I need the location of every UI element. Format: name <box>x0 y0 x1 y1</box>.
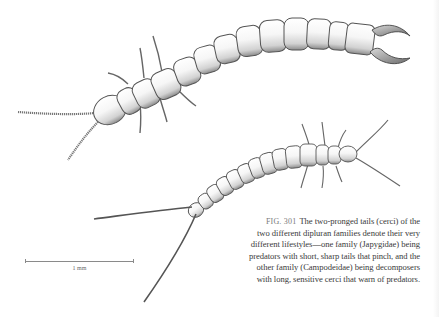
campodeid-antenna-upper <box>356 120 388 152</box>
scale-bar-tick-left <box>25 259 26 263</box>
caption-line-4: predators with short, sharp tails that p… <box>249 251 420 261</box>
japygid-cercus-upper <box>372 25 410 36</box>
book-page: FIG. 301The two-pronged tails (cerci) of… <box>0 0 439 317</box>
caption-line-2: two different dipluran families denote t… <box>257 228 420 238</box>
caption-line-3: different lifestyles—one family (Japygid… <box>251 239 420 249</box>
campodeid-antenna-lower <box>356 158 400 186</box>
caption-line-1: The two-pronged tails (cerci) of the <box>299 216 420 226</box>
scale-bar-tick-right <box>133 259 134 263</box>
japygid-antenna-upper <box>18 112 95 114</box>
scale-bar-line <box>25 261 134 262</box>
japygid-specimen <box>18 18 410 160</box>
scale-bar-label: 1 mm <box>25 265 134 271</box>
figure-number: FIG. 301 <box>266 217 297 226</box>
scale-bar: 1 mm <box>25 258 134 272</box>
japygid-antenna-lower <box>68 122 98 160</box>
page-gutter-shadow <box>433 0 439 317</box>
figure-caption: FIG. 301The two-pronged tails (cerci) of… <box>138 216 420 286</box>
japygid-cercus-lower <box>370 48 410 63</box>
caption-line-5: other family (Campodeidae) being decompo… <box>257 262 420 272</box>
caption-line-6: with long, sensitive cerci that warn of … <box>257 274 420 284</box>
